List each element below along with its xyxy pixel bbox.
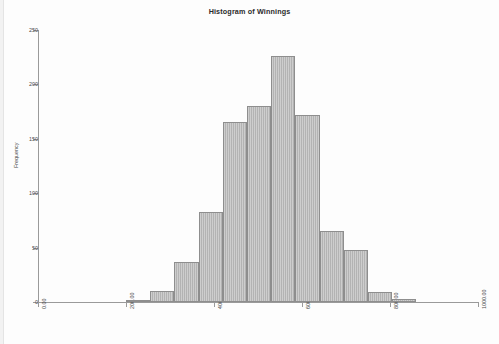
histogram-bar: [295, 115, 319, 302]
y-tick-label: 100: [12, 190, 38, 196]
histogram-bar: [126, 300, 150, 302]
x-tick-mark: [126, 302, 127, 307]
histogram-bar: [271, 56, 295, 302]
x-tick-mark: [214, 302, 215, 307]
y-tick-label-wrap: 250: [0, 27, 38, 33]
y-tick-label: 250: [12, 27, 38, 33]
chart-screenshot: Histogram of Winnings Frequency 05010015…: [0, 0, 499, 344]
histogram-bar: [344, 250, 368, 302]
histogram-bar: [368, 292, 392, 302]
y-tick-label: 200: [12, 81, 38, 87]
histogram-bar: [320, 231, 344, 302]
x-tick-label: 0.00: [41, 299, 47, 310]
y-tick-label: 0: [12, 299, 38, 305]
histogram-bar: [150, 291, 174, 302]
y-tick-label-wrap: 0: [0, 299, 38, 305]
x-axis-line: [38, 302, 479, 303]
x-tick-mark: [38, 302, 39, 307]
x-tick-mark: [302, 302, 303, 307]
histogram-plot-area: Frequency 050100150200250 0.00200.00400.…: [0, 0, 499, 344]
y-tick-label-wrap: 150: [0, 136, 38, 142]
y-tick-label-wrap: 200: [0, 81, 38, 87]
histogram-bar: [247, 106, 271, 302]
x-tick-mark: [390, 302, 391, 307]
histogram-bar: [174, 262, 198, 302]
y-axis-title: Frequency: [13, 143, 19, 168]
x-tick-label: 1000.00: [481, 290, 487, 310]
histogram-bar: [392, 299, 416, 302]
y-tick-label: 150: [12, 136, 38, 142]
y-tick-label-wrap: 50: [0, 245, 38, 251]
y-axis-line: [38, 30, 39, 303]
histogram-bar: [223, 122, 247, 302]
y-tick-label-wrap: 100: [0, 190, 38, 196]
histogram-bar: [199, 212, 223, 302]
y-tick-label: 50: [12, 245, 38, 251]
x-tick-mark: [478, 302, 479, 307]
